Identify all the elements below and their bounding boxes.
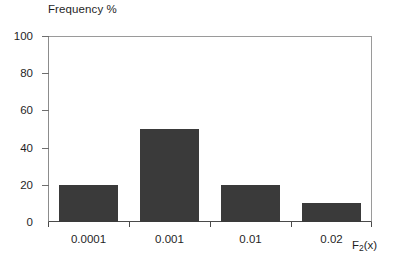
chart-title: Frequency % xyxy=(48,3,117,15)
y-axis-tick-label: 100 xyxy=(14,30,33,42)
y-axis-tick-label: 80 xyxy=(20,67,33,79)
y-axis-tick-label: 40 xyxy=(20,142,33,154)
x-axis-tick-mark xyxy=(210,222,211,227)
y-axis-tick-label: 60 xyxy=(20,104,33,116)
y-axis-tick-labels: 020406080100 xyxy=(0,36,42,222)
x-axis-tick-label: 0.02 xyxy=(320,233,342,245)
bar xyxy=(140,129,198,222)
x-axis-label-subscript: 2 xyxy=(359,243,364,253)
x-axis-tick-label: 0.001 xyxy=(155,233,184,245)
x-axis-label-base: F xyxy=(352,239,359,251)
x-axis-tick-label: 0.0001 xyxy=(71,233,106,245)
bar xyxy=(302,203,360,222)
bar-chart: Frequency % 020406080100 0.00010.0010.01… xyxy=(0,0,400,280)
x-axis-tick-mark xyxy=(129,222,130,227)
x-axis-tick-marks xyxy=(48,222,372,228)
y-axis-tick-label: 0 xyxy=(27,216,33,228)
bar-series xyxy=(48,36,372,222)
x-axis-tick-label: 0.01 xyxy=(239,233,261,245)
x-axis-tick-labels: 0.00010.0010.010.02 xyxy=(48,233,372,251)
bar xyxy=(221,185,279,222)
x-axis-tick-mark xyxy=(371,222,372,227)
x-axis-tick-mark xyxy=(48,222,49,227)
y-axis-tick-label: 20 xyxy=(20,179,33,191)
x-axis-label-suffix: (x) xyxy=(364,239,377,251)
x-axis-tick-mark xyxy=(291,222,292,227)
bar xyxy=(59,185,117,222)
x-axis-label: F2(x) xyxy=(352,239,377,251)
